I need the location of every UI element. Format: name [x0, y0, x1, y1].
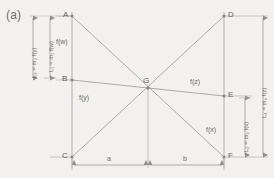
- dim-label-L4: L₄ = m₄ f(z): [261, 88, 267, 118]
- edge-label-fx: f(x): [206, 126, 216, 133]
- point-label-C: C: [62, 151, 68, 160]
- point-label-D: D: [228, 10, 234, 19]
- node-B: [70, 78, 73, 81]
- point-label-B: B: [62, 74, 67, 83]
- node-D: [222, 14, 225, 17]
- edge-label-fz: f(z): [190, 78, 200, 85]
- point-label-F: F: [228, 151, 233, 160]
- panel-label: (a): [6, 8, 21, 22]
- node-A: [70, 14, 73, 17]
- point-label-A: A: [63, 10, 68, 19]
- dim-label-L3: L₃ = m₃ f(y): [31, 48, 37, 78]
- node-E: [222, 94, 225, 97]
- edge-label-fy: f(y): [79, 94, 89, 101]
- point-label-E: E: [228, 90, 233, 99]
- dim-label-a: a: [107, 155, 111, 162]
- dim-label-b: b: [183, 155, 187, 162]
- point-label-G: G: [143, 76, 149, 85]
- dim-label-L2: L₂ = m₂ f(x): [243, 122, 249, 152]
- node-G: [146, 86, 150, 90]
- edge-label-fw: f(w): [56, 38, 68, 45]
- dim-label-L1: L₁ = m₁ f(w): [48, 41, 54, 72]
